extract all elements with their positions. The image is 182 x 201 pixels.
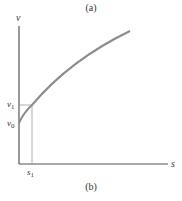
v1-label: v1 <box>7 99 15 111</box>
v0-label: v0 <box>7 118 15 130</box>
s-axis-label: s <box>171 158 175 169</box>
velocity-position-diagram: (a) v s v1 v0 s1 (b) <box>0 0 182 201</box>
caption-b: (b) <box>85 181 97 193</box>
s1-label: s1 <box>27 167 35 179</box>
v-axis-label: v <box>16 12 21 23</box>
velocity-curve <box>19 31 130 123</box>
caption-a: (a) <box>85 2 96 14</box>
